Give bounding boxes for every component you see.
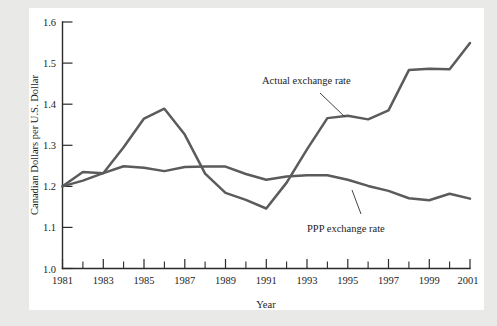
y-axis-title: Canadian Dollars per U.S. Dollar <box>29 75 40 215</box>
series-line-actual-exchange-rate <box>63 43 471 209</box>
x-tick-label: 1985 <box>134 275 155 286</box>
x-tick-label: 2001 <box>458 275 479 286</box>
leader-line-actual <box>320 93 345 117</box>
x-tick-label: 1987 <box>174 275 195 286</box>
annotation-actual-exchange-rate: Actual exchange rate <box>262 75 351 86</box>
x-tick-label: 1989 <box>215 275 236 286</box>
x-tick-label: 1993 <box>297 275 318 286</box>
y-axis-ticks <box>63 22 73 269</box>
x-axis-title: Year <box>256 299 276 310</box>
x-tick-label: 1997 <box>378 275 399 286</box>
x-tick-label: 1983 <box>93 275 114 286</box>
y-tick-label: 1.2 <box>43 181 56 192</box>
x-tick-label: 1991 <box>256 275 277 286</box>
y-tick-label: 1.1 <box>43 222 56 233</box>
series-line-ppp-exchange-rate <box>63 166 471 200</box>
y-tick-label: 1.3 <box>43 140 56 151</box>
y-axis-tick-labels: 1.6 1.5 1.4 1.3 1.2 1.1 1.0 <box>43 17 57 275</box>
y-tick-label: 1.0 <box>43 264 56 275</box>
x-tick-label: 1995 <box>337 275 358 286</box>
x-tick-label: 1981 <box>52 275 73 286</box>
x-axis-tick-labels: 1981 1983 1985 1987 1989 1991 1993 1995 … <box>52 275 479 286</box>
y-tick-label: 1.5 <box>43 58 56 69</box>
y-tick-label: 1.6 <box>43 17 56 28</box>
y-tick-label: 1.4 <box>43 99 57 110</box>
chart-canvas: 1.6 1.5 1.4 1.3 1.2 1.1 1.0 <box>0 0 497 326</box>
exchange-rate-chart-figure: 1.6 1.5 1.4 1.3 1.2 1.1 1.0 <box>0 0 497 326</box>
annotation-ppp-exchange-rate: PPP exchange rate <box>307 223 385 234</box>
x-tick-label: 1999 <box>419 275 440 286</box>
x-axis-ticks <box>63 259 471 269</box>
leader-line-ppp <box>352 190 361 214</box>
